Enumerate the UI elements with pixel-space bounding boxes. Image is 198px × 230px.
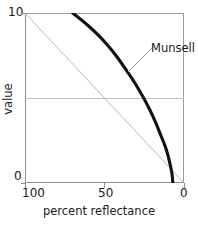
plot-area — [25, 13, 184, 183]
series-paths — [25, 13, 184, 183]
y-tick-label-0: 0 — [14, 170, 22, 183]
x-axis-title: percent reflectance — [0, 204, 198, 218]
x-tick-label-100: 100 — [22, 187, 45, 200]
x-tick-label-0: 0 — [180, 187, 188, 200]
munsell-curve — [73, 13, 173, 183]
x-tick-label-50: 50 — [98, 187, 113, 200]
munsell-value-reflectance-chart: 10 0 100 50 0 percent reflectance value … — [0, 0, 198, 230]
linear-reference-line — [25, 13, 184, 183]
munsell-annotation-label: Munsell — [151, 41, 195, 55]
y-axis-title: value — [1, 74, 15, 124]
